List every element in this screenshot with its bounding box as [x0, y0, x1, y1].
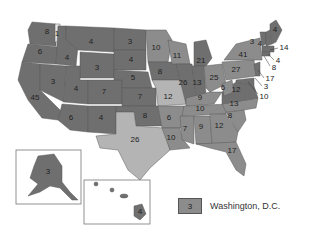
legend-label: Washington, D.C.: [210, 201, 280, 211]
label-SD: 4: [129, 55, 134, 64]
label-TN: 10: [196, 104, 205, 113]
label-OR: 6: [38, 47, 43, 56]
label-IN: 13: [193, 78, 202, 87]
label-OK: 8: [143, 111, 148, 120]
label-MS: 7: [183, 124, 188, 133]
label-GA: 12: [215, 121, 224, 130]
label-MT: 4: [89, 37, 94, 46]
label-WV: 6: [221, 83, 226, 92]
label-CT: 8: [272, 63, 277, 72]
label-NH: 4: [258, 39, 263, 48]
label-MO: 12: [164, 92, 173, 101]
label-ME: 4: [273, 25, 278, 34]
label-MN: 10: [152, 43, 161, 52]
state-CT: [262, 52, 270, 56]
label-KY: 9: [198, 93, 203, 102]
label-KS: 7: [138, 92, 143, 101]
legend-swatch: 3: [178, 198, 202, 214]
label-DE: 3: [264, 82, 269, 91]
label-WA-split: 1: [55, 29, 60, 38]
label-FL: 17: [228, 146, 237, 155]
label-AL: 9: [199, 122, 204, 131]
label-IL: 26: [179, 78, 188, 87]
label-LA: 10: [167, 133, 176, 142]
label-CA: 45: [31, 93, 40, 102]
label-TX: 26: [131, 135, 140, 144]
label-AZ: 6: [69, 113, 74, 122]
label-NM: 4: [99, 113, 104, 122]
label-WI: 11: [173, 51, 182, 60]
label-ID: 4: [65, 53, 70, 62]
label-HI: 4: [138, 207, 143, 216]
label-NV: 3: [51, 77, 56, 86]
label-OH: 25: [210, 73, 219, 82]
label-RI: 4: [276, 56, 281, 65]
label-WY: 3: [95, 63, 100, 72]
label-NY: 41: [239, 50, 248, 59]
hawaii-island-maui: [120, 194, 128, 198]
label-NC: 13: [230, 99, 239, 108]
state-WA: [28, 22, 56, 46]
state-IA: [148, 62, 180, 80]
hawaii-island-oahu: [110, 188, 114, 192]
label-UT: 4: [74, 84, 79, 93]
label-AR: 6: [167, 113, 172, 122]
hawaii-island-kauai: [94, 182, 98, 186]
label-VT: 3: [250, 37, 255, 46]
label-MA: 14: [280, 43, 289, 52]
state-MA: [262, 46, 274, 52]
label-AK: 3: [46, 167, 51, 176]
legend-washington-dc: 3 Washington, D.C.: [178, 198, 280, 214]
label-IA: 8: [158, 67, 163, 76]
label-CO: 7: [102, 87, 107, 96]
label-SC: 8: [228, 111, 233, 120]
label-MD: 10: [260, 92, 269, 101]
label-MI: 21: [197, 56, 206, 65]
label-ND: 3: [128, 37, 133, 46]
label-NE: 5: [131, 73, 136, 82]
label-WA: 8: [45, 27, 50, 36]
label-VA: 12: [232, 85, 241, 94]
state-FL: [196, 142, 246, 176]
label-PA: 27: [232, 65, 241, 74]
